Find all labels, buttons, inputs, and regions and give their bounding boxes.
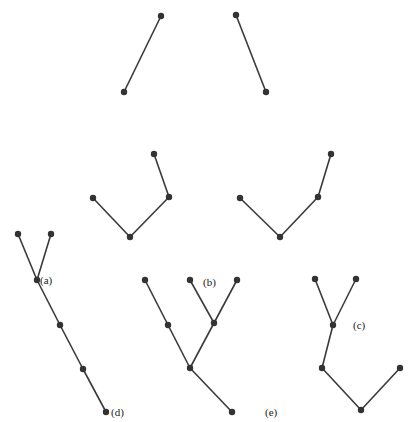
tree-node [165, 322, 171, 328]
tree-diagram: (a)(b)(c)(d)(e) [0, 0, 416, 422]
tree-node [319, 365, 325, 371]
tree-bottom-right [315, 279, 400, 410]
tree-node [166, 194, 172, 200]
tree-edge [168, 325, 190, 368]
tree-edge [130, 197, 169, 237]
node-label: (d) [111, 406, 124, 419]
tree-bottom-middle [145, 280, 237, 412]
tree-node [142, 277, 148, 283]
tree-edge [236, 15, 266, 92]
tree-node [158, 13, 164, 19]
tree-edge [124, 16, 161, 92]
tree-node [211, 320, 217, 326]
tree-edge [190, 323, 214, 368]
node-label: (b) [203, 276, 216, 289]
tree-edge [214, 280, 237, 323]
tree-node [397, 365, 403, 371]
tree-edge [280, 197, 318, 237]
tree-node [358, 407, 364, 413]
tree-node [353, 276, 359, 282]
tree-node [229, 409, 235, 415]
tree-node [15, 231, 21, 237]
tree-node [103, 409, 109, 415]
tree-top-left [124, 16, 161, 92]
tree-edge [190, 368, 232, 412]
tree-edge [83, 369, 106, 412]
nodes-layer [15, 12, 403, 415]
tree-edge [240, 198, 280, 237]
tree-node [277, 234, 283, 240]
node-label: (a) [40, 274, 53, 287]
tree-edge [361, 368, 400, 410]
tree-edge [154, 154, 169, 197]
tree-node [237, 195, 243, 201]
tree-node [57, 322, 63, 328]
tree-edge [18, 234, 37, 280]
tree-middle-left [93, 154, 169, 237]
tree-node [234, 277, 240, 283]
tree-edge [315, 279, 333, 325]
tree-node [90, 195, 96, 201]
tree-node [151, 151, 157, 157]
tree-node [187, 277, 193, 283]
tree-node [80, 366, 86, 372]
tree-node [315, 194, 321, 200]
tree-top-right [236, 15, 266, 92]
tree-node [328, 151, 334, 157]
tree-node [330, 322, 336, 328]
tree-node [187, 365, 193, 371]
tree-edge [322, 325, 333, 368]
tree-node [48, 231, 54, 237]
node-label: (c) [353, 319, 366, 332]
tree-node [121, 89, 127, 95]
tree-edge [322, 368, 361, 410]
labels-layer: (a)(b)(c)(d)(e) [40, 274, 366, 419]
tree-edge [145, 280, 168, 325]
edges-layer [18, 15, 400, 412]
tree-node [127, 234, 133, 240]
tree-edge [37, 280, 60, 325]
node-label: (e) [265, 406, 278, 419]
tree-edge [93, 198, 130, 237]
tree-edge [318, 154, 331, 197]
tree-node [263, 89, 269, 95]
tree-edge [60, 325, 83, 369]
tree-node [312, 276, 318, 282]
tree-node [233, 12, 239, 18]
